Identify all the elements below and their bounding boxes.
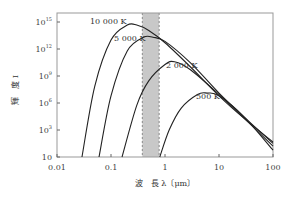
y-tick-label: 10 — [42, 153, 52, 162]
y-tick-label: 1012 — [35, 43, 52, 54]
y-tick-label: 109 — [39, 70, 52, 81]
x-tick-label: 0.01 — [48, 163, 66, 172]
curve-500K — [160, 93, 273, 157]
x-tick-label: 10 — [214, 163, 224, 172]
y-axis-label: 輝 度 I — [10, 75, 20, 105]
blackbody-chart: 0.010.1110100 1010310610910121015 10 000… — [0, 0, 291, 200]
curve-label: 10 000 K — [90, 17, 128, 26]
plot-frame — [57, 13, 273, 157]
curve-label: 2 000 K — [166, 61, 198, 70]
x-tick-label: 100 — [265, 163, 280, 172]
y-tick-label: 106 — [39, 97, 52, 108]
curve-5000K — [99, 36, 273, 157]
y-axis-ticks: 1010310610910121015 — [35, 16, 60, 162]
x-axis-label: 波 長 λ〔μm〕 — [135, 178, 195, 188]
x-tick-label: 1 — [162, 163, 167, 172]
y-tick-label: 103 — [39, 124, 52, 135]
curve-10000K — [82, 24, 273, 157]
x-tick-label: 0.1 — [105, 163, 118, 172]
curve-label: 5 000 K — [114, 34, 146, 43]
curves — [82, 24, 273, 157]
y-tick-label: 1015 — [35, 16, 52, 27]
curve-label: 500 K — [196, 92, 221, 101]
